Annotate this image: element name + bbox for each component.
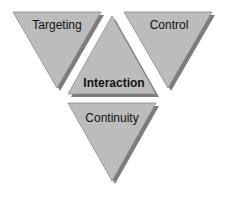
continuity-label: Continuity	[85, 111, 138, 125]
triangle-continuity: Continuity	[68, 103, 159, 184]
control-label: Control	[150, 18, 189, 32]
triangle-diagram: Targeting Control Interaction Continuity	[0, 0, 225, 199]
targeting-label: Targeting	[32, 18, 81, 32]
interaction-label: Interaction	[83, 76, 144, 90]
